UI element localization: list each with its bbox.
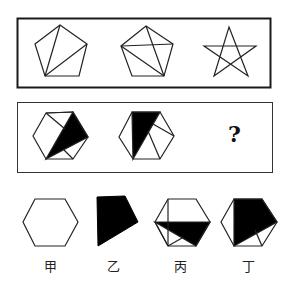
row2-figure-1-hexagon [33, 112, 88, 159]
row1-figure-2-pentagon [121, 26, 173, 76]
option-label-jia: 甲 [35, 256, 65, 275]
option-label-yi: 乙 [98, 256, 128, 275]
option-jia-hexagon[interactable] [23, 199, 78, 246]
option-ding-hexagon[interactable] [221, 199, 277, 246]
unknown-figure-question-mark: ? [228, 121, 241, 147]
option-label-bing: 丙 [165, 256, 195, 275]
option-label-ding: 丁 [233, 256, 263, 275]
puzzle-canvas [0, 0, 294, 293]
option-bing-hexagon[interactable] [155, 199, 210, 246]
option-yi-black-shape[interactable] [97, 196, 138, 246]
row1-figure-1-pentagon [35, 25, 87, 76]
row1-figure-3-star [204, 27, 256, 76]
row2-figure-2-hexagon [119, 112, 174, 159]
